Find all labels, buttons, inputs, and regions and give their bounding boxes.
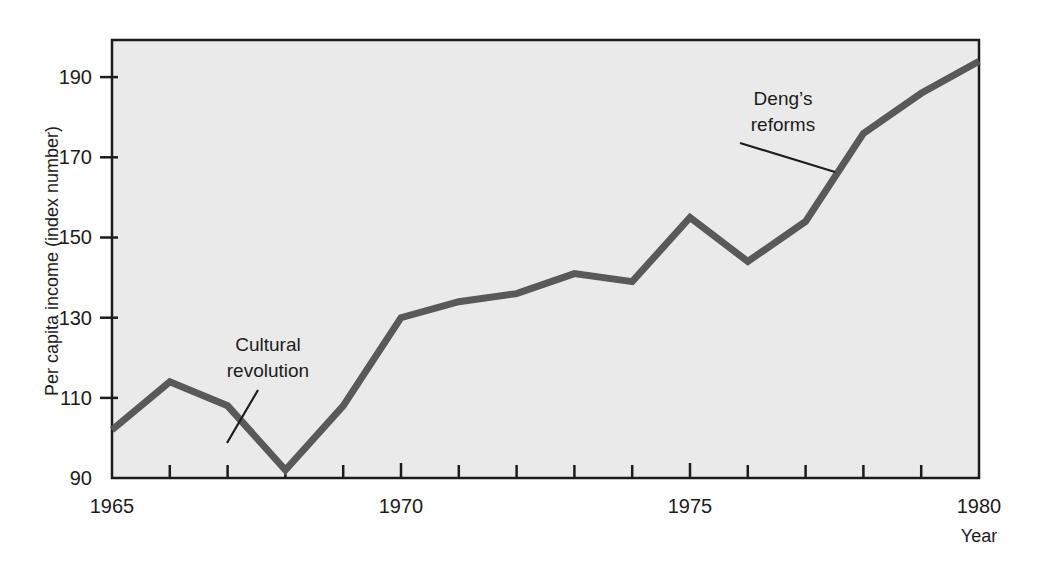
- x-tick-label-1980: 1980: [957, 495, 1002, 517]
- x-axis-tick-labels: 1965 1970 1975 1980: [90, 495, 1002, 517]
- y-tick-label-110: 110: [60, 387, 92, 409]
- annotation-dengs-reforms-line1: Deng’s: [754, 88, 813, 109]
- y-tick-label-130: 130: [59, 307, 92, 329]
- annotation-cultural-revolution-line2: revolution: [227, 360, 309, 381]
- x-axis-title: Year: [961, 526, 997, 546]
- y-tick-label-190: 190: [59, 66, 92, 88]
- x-tick-label-1970: 1970: [379, 495, 424, 517]
- y-axis-title: Per capita income (index number): [42, 126, 62, 396]
- x-tick-label-1975: 1975: [668, 495, 713, 517]
- x-tick-label-1965: 1965: [90, 495, 135, 517]
- annotation-cultural-revolution-line1: Cultural: [235, 334, 300, 355]
- y-tick-label-170: 170: [59, 146, 92, 168]
- line-chart: 190 170 150 130 110 90 Per capita income…: [0, 0, 1041, 578]
- chart-figure: 190 170 150 130 110 90 Per capita income…: [0, 0, 1041, 578]
- y-tick-label-90: 90: [70, 467, 92, 489]
- y-tick-label-150: 150: [59, 226, 92, 248]
- annotation-dengs-reforms-line2: reforms: [751, 114, 815, 135]
- plot-area-background: [112, 40, 979, 478]
- y-axis-tick-labels: 190 170 150 130 110 90: [59, 66, 92, 489]
